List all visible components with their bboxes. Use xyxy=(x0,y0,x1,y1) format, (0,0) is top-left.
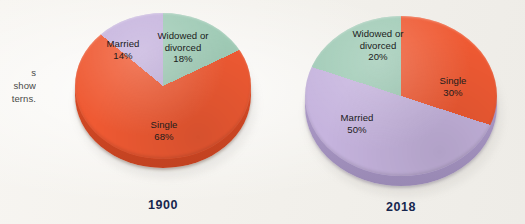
pie-2018-label-married: Married 50% xyxy=(328,112,386,135)
pie-1900-label-single: Single 68% xyxy=(138,119,190,142)
pie-2018-label-married-pct: 50% xyxy=(328,124,386,136)
pie-chart-1900: Widowed or divorced 18% Married 14% Sing… xyxy=(0,0,262,224)
pie-1900-label-widowed: Widowed or divorced 18% xyxy=(146,30,220,65)
pie-1900-label-married-pct: 14% xyxy=(95,50,151,62)
pie-2018-label-widowed: Widowed or divorced 20% xyxy=(338,28,418,63)
pie-1900-year-caption: 1900 xyxy=(113,198,213,212)
pie-1900-label-married: Married 14% xyxy=(95,38,151,61)
pie-2018-label-single: Single 30% xyxy=(427,75,479,98)
pie-chart-2018: Widowed or divorced 20% Single 30% Marri… xyxy=(262,0,525,224)
pie-1900-label-single-pct: 68% xyxy=(138,131,190,143)
pie-2018-label-single-line1: Single xyxy=(440,75,467,86)
pie-2018-label-married-line1: Married xyxy=(341,112,374,123)
pie-1900-label-single-line1: Single xyxy=(151,119,178,130)
pie-1900-label-widowed-line1: Widowed or xyxy=(157,30,208,41)
pie-2018-label-single-pct: 30% xyxy=(427,87,479,99)
pie-2018-label-widowed-line2: divorced xyxy=(360,40,397,51)
figure-canvas: s show terns. Widowed or divorced 18% Ma… xyxy=(0,0,525,224)
pie-1900-label-widowed-line2: divorced xyxy=(165,42,202,53)
pie-1900-label-married-line1: Married xyxy=(107,38,140,49)
pie-2018-label-widowed-line1: Widowed or xyxy=(352,28,403,39)
pie-2018-label-widowed-pct: 20% xyxy=(338,51,418,63)
pie-2018-year-caption: 2018 xyxy=(351,200,451,214)
pie-1900-label-widowed-pct: 18% xyxy=(146,53,220,65)
